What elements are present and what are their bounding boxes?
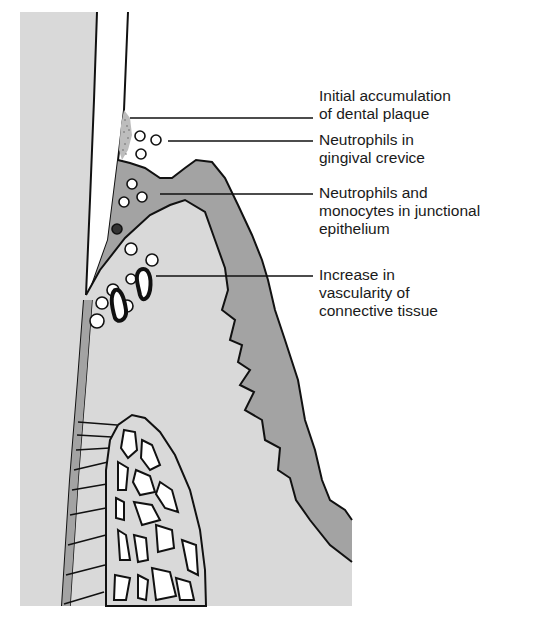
crevice-neutrophils bbox=[135, 131, 161, 159]
label-crevice-neutrophils: Neutrophils in gingival crevice bbox=[319, 131, 425, 167]
label-plaque: Initial accumulation of dental plaque bbox=[319, 87, 451, 123]
gingivitis-diagram bbox=[0, 0, 541, 627]
label-junctional-cells: Neutrophils and monocytes in junctional … bbox=[319, 184, 480, 238]
label-vascularity: Increase in vascularity of connective ti… bbox=[319, 266, 438, 320]
